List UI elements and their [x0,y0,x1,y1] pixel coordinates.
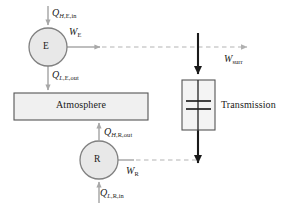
label-heat-in-refrigerator: QL,R,in [100,188,124,198]
label-work-surroundings: Wsurr [224,54,243,64]
thermodynamic-cycle-diagram: QH,E,in WE QL,E,out QH,R,out WR QL,R,in … [0,0,291,211]
atmosphere-box-label: Atmosphere [14,100,148,110]
label-work-in-refrigerator: WR [126,166,139,176]
label-heat-in-engine: QH,E,in [52,8,77,18]
subscript-rest: E [77,31,81,38]
label-heat-out-refrigerator: QH,R,out [104,127,132,137]
subscript-rest: ,E,in [64,12,77,19]
subscript-rest: ,R,out [116,131,132,138]
subscript-rest: surr [232,58,242,65]
subscript-rest: ,R,in [111,192,124,199]
subscript-rest: ,E,out [63,74,79,81]
label-work-out-engine: WE [69,27,81,37]
subscript-rest: R [134,170,138,177]
engine-node-label: E [43,42,49,52]
refrigerator-node-label: R [94,155,100,165]
transmission-box-label: Transmission [221,100,276,110]
label-heat-out-engine: QL,E,out [52,70,79,80]
